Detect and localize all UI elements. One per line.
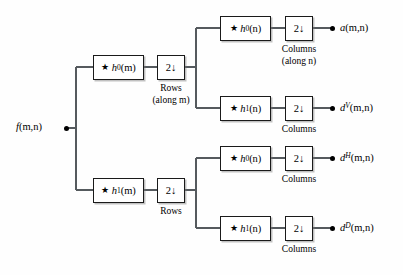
columns-caption-text: Columns [269,174,329,186]
column-decimator-approximation-block[interactable]: 2↓ [285,16,313,41]
columns-caption-text: Columns [269,244,329,256]
output-terminal-dot-approximation [330,26,335,31]
rows-caption-text: Rows [141,206,201,218]
downsample-by-2-label: 2↓ [294,223,305,234]
column-stage-vertical-caption: Columns [269,124,329,136]
convolution-star-icon: ★ [230,153,238,163]
output-terminal-dot-horizontal [330,156,335,161]
column-stage-approximation-caption: Columns (along n) [269,44,329,67]
row-stage-lower-caption: Rows [141,206,201,218]
filter-h1-n-diagonal-block[interactable]: ★h1(n) [220,216,271,241]
columns-caption-text: Columns [269,44,329,56]
filter-h0-n-approximation-block[interactable]: ★h0(n) [220,16,271,41]
downsample-by-2-label: 2↓ [166,185,177,196]
columns-along-n-caption-text: (along n) [269,56,329,68]
filter-h0-m-block[interactable]: ★h0(m) [93,55,144,80]
convolution-star-icon: ★ [101,62,109,72]
output-terminal-dot-vertical [330,106,335,111]
rows-caption-text: Rows [141,83,201,95]
column-decimator-vertical-block[interactable]: 2↓ [285,96,313,121]
wavelet-filter-bank-diagram: f(m,n) ★h0(m) 2↓ Rows (along m) ★h1(m) 2… [0,0,403,275]
convolution-star-icon: ★ [230,223,238,233]
column-stage-horizontal-caption: Columns [269,174,329,186]
convolution-star-icon: ★ [230,103,238,113]
output-label-horizontal-detail: dH(m,n) [340,151,374,163]
downsample-by-2-label: 2↓ [294,153,305,164]
column-decimator-horizontal-block[interactable]: 2↓ [285,146,313,171]
columns-caption-text: Columns [269,124,329,136]
row-decimator-lower-block[interactable]: 2↓ [157,178,185,203]
downsample-by-2-label: 2↓ [166,62,177,73]
convolution-star-icon: ★ [230,23,238,33]
column-stage-diagonal-caption: Columns [269,244,329,256]
downsample-by-2-label: 2↓ [294,103,305,114]
filter-h0-n-horizontal-block[interactable]: ★h0(n) [220,146,271,171]
column-decimator-diagonal-block[interactable]: 2↓ [285,216,313,241]
input-signal-label: f(m,n) [16,121,42,132]
output-label-diagonal-detail: dD(m,n) [340,221,374,233]
filter-h1-n-vertical-block[interactable]: ★h1(n) [220,96,271,121]
convolution-star-icon: ★ [101,185,109,195]
output-label-vertical-detail: dV(m,n) [340,101,373,113]
output-label-approximation: a(m,n) [340,21,368,33]
wire-layer [0,0,403,275]
rows-along-m-caption-text: (along m) [141,95,201,107]
output-terminal-dot-diagonal [330,226,335,231]
filter-h1-m-block[interactable]: ★h1(m) [93,178,144,203]
row-stage-upper-caption: Rows (along m) [141,83,201,106]
downsample-by-2-label: 2↓ [294,23,305,34]
input-terminal-dot [64,126,69,131]
row-decimator-upper-block[interactable]: 2↓ [157,55,185,80]
